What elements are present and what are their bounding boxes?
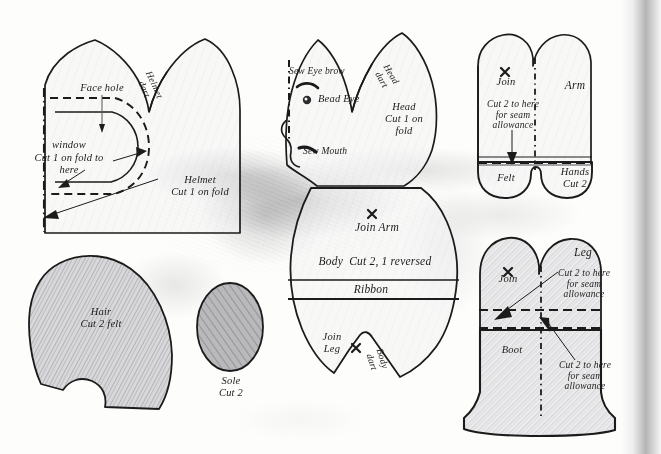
label-face-hole: Face hole: [57, 82, 147, 94]
label-helmet-main: Helmet Cut 1 on fold: [152, 174, 248, 198]
pattern-sheet-page: Face hole window Cut 1 on fold to here H…: [0, 0, 661, 454]
label-hair-main: Hair Cut 2 felt: [63, 306, 139, 330]
label-leg-join: Join: [489, 273, 527, 285]
label-ribbon: Ribbon: [340, 283, 402, 296]
label-arm-hands: Hands Cut 2: [551, 166, 599, 190]
label-arm-seam-note: Cut 2 to here for seam allowance: [476, 99, 550, 131]
label-arm-main: Arm: [555, 79, 595, 92]
label-window: window: [21, 139, 117, 151]
label-boot: Boot: [494, 344, 530, 356]
label-arm-join: Join: [486, 76, 526, 88]
label-arm-felt: Felt: [488, 172, 524, 184]
label-sew-eyebrow: Sew Eye brow: [289, 66, 373, 77]
label-head-main: Head Cut 1 on fold: [371, 101, 437, 136]
label-join-leg: Join Leg: [311, 331, 353, 355]
label-leg-seam-note-top: Cut 2 to here for seam allowance: [546, 268, 622, 300]
label-window-note: Cut 1 on fold to here: [12, 152, 126, 176]
label-sole-main: Sole Cut 2: [203, 375, 259, 399]
label-body-main: Body Cut 2, 1 reversed: [300, 255, 450, 268]
label-join-arm: Join Arm: [342, 221, 412, 234]
join-marker-body-leg: [352, 344, 360, 352]
label-sew-mouth: Sew Mouth: [303, 146, 373, 157]
label-leg-main: Leg: [566, 246, 600, 259]
label-leg-seam-note-bottom: Cut 2 to here for seam allowance: [546, 360, 624, 392]
